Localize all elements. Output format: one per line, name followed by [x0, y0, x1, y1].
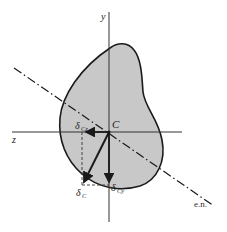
svg-text:C: C: [82, 192, 87, 199]
y-axis-label: y: [100, 11, 106, 22]
svg-text:δ: δ: [111, 182, 116, 193]
neutral-axis-label: e.n.: [194, 199, 207, 209]
centroid-point: [107, 130, 110, 133]
delta-c-label: δ C: [76, 187, 87, 199]
deflection-diagram: y z C δ Cz δ C δ Cy e.n.: [0, 0, 227, 232]
svg-text:Cy: Cy: [117, 187, 124, 194]
z-axis-label: z: [11, 134, 16, 145]
cross-section-shape: [60, 44, 163, 189]
centroid-label: C: [112, 118, 120, 130]
svg-text:δ: δ: [75, 120, 80, 131]
svg-text:δ: δ: [76, 187, 81, 198]
svg-text:Cz: Cz: [81, 125, 88, 132]
